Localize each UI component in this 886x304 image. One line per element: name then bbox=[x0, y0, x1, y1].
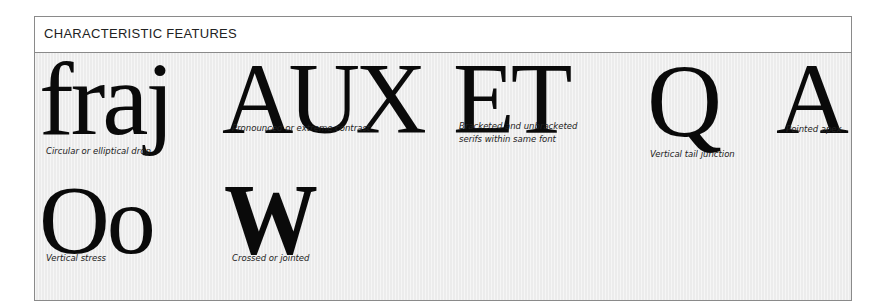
specimen-q: Q bbox=[647, 49, 722, 153]
caption-circular-drop: Circular or elliptical drop bbox=[46, 145, 151, 158]
caption-pointed-apex: Pointed apex bbox=[786, 123, 842, 136]
caption-vertical-stress: Vertical stress bbox=[46, 252, 106, 265]
panel-title: CHARACTERISTIC FEATURES bbox=[44, 26, 237, 41]
characteristic-features-panel: CHARACTERISTIC FEATURES fraj Circular or… bbox=[34, 16, 852, 301]
panel-body: fraj Circular or elliptical drop AUX Pro… bbox=[35, 53, 851, 300]
caption-line-2: serifs within same font bbox=[459, 133, 577, 146]
caption-bracketed-serifs: Bracketed and unbracketed serifs within … bbox=[459, 120, 577, 146]
caption-crossed-jointed: Crossed or jointed bbox=[232, 252, 309, 265]
specimen-fraj: fraj bbox=[39, 47, 171, 151]
caption-vertical-tail: Vertical tail junction bbox=[650, 148, 735, 161]
caption-line-1: Bracketed and unbracketed bbox=[459, 120, 577, 133]
caption-extreme-contrast: Pronounced or extreme contrast bbox=[232, 122, 370, 135]
